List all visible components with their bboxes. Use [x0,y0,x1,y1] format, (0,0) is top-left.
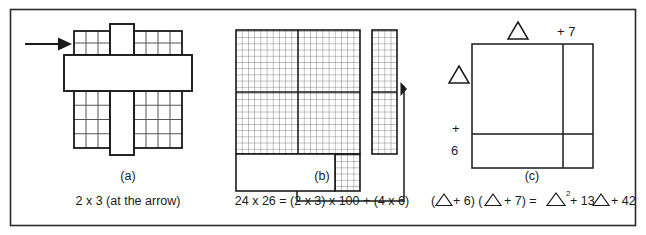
figure-canvas: (a) 2 x 3 (at the arrow) [0,0,646,235]
panel-c-left-plus-label: + [452,121,460,136]
panel-c-caption-plus7: + 7) = [504,194,537,208]
panel-a-top-right-cells [134,31,182,55]
panel-c-left-six-label: 6 [451,143,458,158]
panel-b-caption: 24 x 26 = (2 x 3) x 100 + (4 x 6) [235,194,409,208]
panel-b-letter: (b) [314,169,329,183]
panel-a-top-left-cells [74,31,110,55]
panel-c-letter: (c) [525,169,540,183]
panel-a-bottom-left-cells [74,91,110,148]
panel-c-caption-end: + 42 [611,194,636,208]
panel-b-main-grid [236,30,360,154]
panel-c-caption-mid: + 13 [570,194,595,208]
panel-a-bottom-right-cells [134,91,182,148]
panel-a-caption: 2 x 3 (at the arrow) [76,194,181,208]
panel-c-rect [472,44,593,168]
panel-c-caption-plus6: + 6) ( [453,194,483,208]
panel-b-right-strip [372,30,397,154]
figure-container: (a) 2 x 3 (at the arrow) [0,0,646,235]
panel-c-top-plus7-label: + 7 [557,24,575,39]
panel-b-bottom-block [335,154,360,191]
panel-a-letter: (a) [120,169,135,183]
